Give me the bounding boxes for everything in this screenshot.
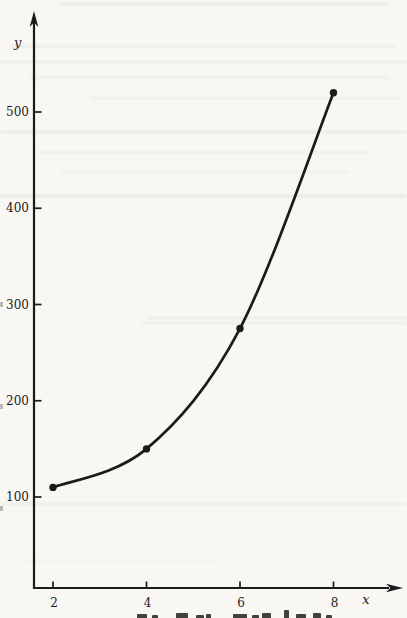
caption-letter-top-fragment xyxy=(176,613,188,618)
caption-letter-top-fragment xyxy=(233,614,247,618)
caption-letter-top-fragment xyxy=(284,610,289,618)
caption-letter-top-fragment xyxy=(313,613,321,618)
data-point-marker xyxy=(49,484,56,491)
curve-chart: y x 1002003004005002468 xyxy=(0,0,407,618)
plot-series xyxy=(49,89,337,491)
caption-letter-top-fragment xyxy=(296,614,306,618)
data-curve xyxy=(53,93,334,488)
y-tick-label: 500 xyxy=(6,105,29,119)
y-tick-label: 400 xyxy=(6,201,29,215)
axis-ticks: 1002003004005002468 xyxy=(6,105,338,609)
scanned-page: y x 1002003004005002468 xyxy=(0,0,407,618)
y-axis-label: y xyxy=(13,35,22,50)
caption-letter-top-fragment xyxy=(206,614,211,618)
y-tick-label: 100 xyxy=(6,490,29,504)
data-point-marker xyxy=(143,445,150,452)
data-point-marker xyxy=(330,89,337,96)
x-axis-label: x xyxy=(362,592,370,607)
caption-letter-top-fragment xyxy=(262,613,271,618)
y-tick-label: 200 xyxy=(6,394,29,408)
cropped-caption-fragment xyxy=(0,608,407,618)
data-point-marker xyxy=(236,325,243,332)
caption-letter-top-fragment xyxy=(137,614,147,618)
y-tick-label: 300 xyxy=(6,298,29,312)
